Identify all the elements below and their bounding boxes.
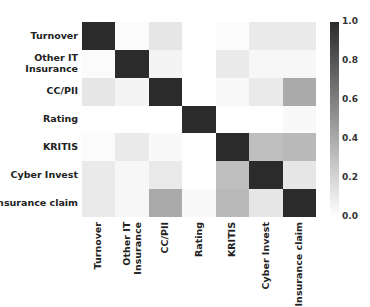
x-tick-label: Cyber Invest: [261, 222, 272, 290]
colorbar-tick-label: 0.0: [342, 211, 358, 221]
heatmap-grid: 10.020.1200.020.10.10.0210.0500.10.040.0…: [82, 22, 316, 217]
heatmap-cell: 0.02: [82, 133, 116, 161]
heatmap-cell: 1: [249, 161, 283, 189]
heatmap-cell: 0: [182, 161, 216, 189]
heatmap-cell: 0.03: [182, 189, 216, 217]
heatmap-cell: 0.12: [149, 22, 183, 50]
heatmap-cell: 0: [149, 106, 183, 134]
heatmap-cell: 1: [82, 22, 116, 50]
y-tick-label: Turnover: [31, 31, 79, 42]
heatmap-cell: 0.1: [82, 189, 116, 217]
heatmap-cell: 0: [182, 50, 216, 78]
heatmap-cell: 0.3: [249, 133, 283, 161]
heatmap-cell: 0: [182, 78, 216, 106]
heatmap-cell: 0: [216, 106, 250, 134]
correlation-heatmap: TurnoverOther ITInsuranceCC/PIIRatingKRI…: [0, 0, 370, 307]
heatmap-cell: 0: [249, 106, 283, 134]
heatmap-cell: 0.03: [216, 78, 250, 106]
heatmap-cell: 1: [283, 189, 317, 217]
heatmap-cell: 0.03: [149, 133, 183, 161]
heatmap-cell: 0: [182, 22, 216, 50]
heatmap-cell: 0.4: [283, 78, 317, 106]
heatmap-cell: 0.33: [283, 133, 317, 161]
heatmap-cell: 0.1: [283, 22, 317, 50]
colorbar-tick-label: 0.4: [342, 133, 358, 143]
heatmap-cell: 0.04: [283, 50, 317, 78]
heatmap-cell: 0.02: [216, 22, 250, 50]
heatmap-cell: 0.04: [249, 50, 283, 78]
heatmap-cell: 0.02: [82, 50, 116, 78]
x-tick-label: Turnover: [93, 222, 104, 270]
colorbar: [330, 22, 339, 217]
heatmap-cell: 1: [115, 50, 149, 78]
heatmap-cell: 0: [182, 133, 216, 161]
heatmap-cell: 0.33: [216, 189, 250, 217]
colorbar-tick-label: 0.2: [342, 172, 358, 182]
heatmap-cell: 0: [82, 106, 116, 134]
heatmap-cell: 0.3: [216, 161, 250, 189]
heatmap-cell: 0.04: [115, 161, 149, 189]
heatmap-cell: 0.05: [149, 50, 183, 78]
colorbar-tick-label: 0.6: [342, 94, 358, 104]
x-tick-label: Rating: [194, 222, 205, 257]
heatmap-cell: 0.12: [283, 161, 317, 189]
y-tick-label: Rating: [43, 114, 78, 125]
y-tick-label: Cyber Invest: [10, 170, 78, 181]
heatmap-cell: 0.02: [115, 22, 149, 50]
x-tick-label: Other ITInsurance: [122, 222, 143, 275]
heatmap-cell: 0.12: [82, 78, 116, 106]
heatmap-cell: 0.1: [82, 161, 116, 189]
y-tick-label: CC/PII: [47, 86, 78, 97]
heatmap-cell: 0.1: [149, 161, 183, 189]
y-tick-label: Insurance claim: [0, 198, 78, 209]
heatmap-cell: 0.1: [249, 78, 283, 106]
heatmap-cell: 0.12: [249, 189, 283, 217]
y-tick-label: Other ITInsurance: [25, 53, 78, 74]
x-tick-label: CC/PII: [160, 222, 171, 253]
heatmap-cell: 0.4: [149, 189, 183, 217]
x-tick-label: KRITIS: [227, 222, 238, 257]
heatmap-cell: 0.1: [115, 133, 149, 161]
colorbar-tick-label: 1.0: [342, 16, 358, 26]
heatmap-cell: 1: [216, 133, 250, 161]
x-tick-label: Insurance claim: [294, 222, 305, 306]
colorbar-tick-label: 0.8: [342, 55, 358, 65]
heatmap-cell: 0: [115, 106, 149, 134]
heatmap-cell: 0.1: [249, 22, 283, 50]
heatmap-cell: 0.04: [115, 189, 149, 217]
heatmap-cell: 0.03: [283, 106, 317, 134]
y-tick-label: KRITIS: [43, 142, 78, 153]
heatmap-cell: 1: [182, 106, 216, 134]
heatmap-cell: 0.05: [115, 78, 149, 106]
heatmap-cell: 1: [149, 78, 183, 106]
heatmap-cell: 0.1: [216, 50, 250, 78]
